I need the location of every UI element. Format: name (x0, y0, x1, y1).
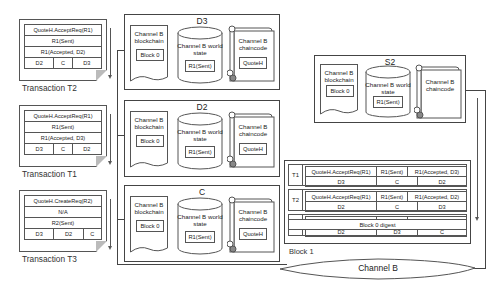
world-state-title: Channel B world state (177, 42, 223, 56)
transaction-label: Transaction T3 (22, 254, 77, 264)
blockchain-title: Channel B blockchain (131, 30, 167, 44)
block-0: Block 0 (136, 135, 164, 147)
chaincode-scroll: Channel B chaincode (414, 64, 462, 120)
endorser-cell: D2 (72, 144, 101, 155)
endorser-cell: D3 (25, 229, 54, 240)
world-state-db: Channel B world state R1(Sent) (365, 65, 411, 119)
world-state-value: R1(Sent) (373, 96, 403, 108)
scroll-icon (227, 111, 275, 169)
endorser-cell: D3 (418, 202, 467, 212)
transaction-card-t3: QuoteH.CreateReq(R2) N/A R2(Sent) D3 D2 … (19, 190, 107, 252)
peer-box-d3: D3 Channel B blockchain Block 0 Channel … (124, 14, 280, 90)
peer-box-c: C Channel B blockchain Block 0 Channel B… (124, 185, 280, 262)
endorser-cell: D2 (418, 177, 467, 187)
transaction-card-t2: QuoteH.AcceptReq(R1) R1(Sent) R1(Accepte… (19, 19, 107, 81)
world-state-db: Channel B world state R1(Sent) (177, 197, 223, 255)
proposal-cell: QuoteH.AcceptReq(R1) (25, 25, 102, 36)
endorser-cell: D3 (306, 177, 377, 187)
proposal-cell: QuoteH.CreateReq(R2) (25, 196, 102, 207)
block-label: Block 1 (289, 247, 314, 256)
endorser-cell: C (83, 229, 101, 240)
arrow-down-icon (110, 28, 111, 76)
peer-box-d2: D2 Channel B blockchain Block 0 Channel … (124, 100, 280, 177)
chaincode-title: Channel B chaincode (233, 208, 273, 222)
chaincode-title: Channel B chaincode (233, 37, 273, 51)
world-state-value: R1(Sent) (185, 60, 215, 72)
transaction-label: Transaction T1 (22, 169, 77, 179)
chaincode-value: QuoteH (239, 228, 267, 240)
blockchain-ledger: Channel B blockchain Block 0 (320, 64, 358, 110)
endorser-cell: C (54, 144, 72, 155)
proposal-cell: QuoteH.AcceptReq(R1) (306, 167, 377, 177)
transaction-card-t1: QuoteH.AcceptReq(R1) R1(Sent) R1(Accepte… (19, 105, 107, 167)
wave-edge-icon (320, 106, 358, 116)
wave-edge-icon (130, 159, 168, 169)
scroll-icon (227, 25, 275, 83)
block-transaction-table: QuoteH.AcceptReq(R1) R1(Sent) R1(Accepte… (305, 191, 467, 212)
endorser-cell: C (377, 202, 418, 212)
connector-line (117, 50, 118, 265)
block-digest: Block 0 digest (288, 219, 467, 230)
orderer-box-s2: S2 Channel B blockchain Block 0 Channel … (314, 55, 466, 123)
chaincode-scroll: Channel B chaincode QuoteH (227, 25, 275, 83)
wave-edge-icon (130, 244, 168, 254)
endorser-cell: D2 (25, 58, 54, 69)
blockchain-ledger: Channel B blockchain Block 0 (130, 111, 168, 163)
proposal-cell: QuoteH.AcceptReq(R1) (25, 111, 102, 122)
connector-line (466, 90, 486, 91)
world-state-title: Channel B world state (177, 128, 223, 142)
block-transaction-t2: T2 QuoteH.AcceptReq(R1) R1(Sent) R1(Acce… (288, 189, 467, 211)
chaincode-value: QuoteH (239, 57, 267, 69)
world-state-value: R1(Sent) (185, 146, 215, 158)
block-0: Block 0 (136, 220, 164, 232)
write-set-cell: R1(Accepted, D3) (408, 167, 467, 177)
block-1: T1 QuoteH.AcceptReq(R1) R1(Sent) R1(Acce… (284, 160, 471, 244)
block-transaction-t1: T1 QuoteH.AcceptReq(R1) R1(Sent) R1(Acce… (288, 164, 467, 186)
scroll-icon (227, 196, 275, 254)
endorser-cell: D2 (306, 202, 377, 212)
page-fold-icon (96, 70, 107, 81)
endorser-cell: D3 (25, 144, 54, 155)
chaincode-value: QuoteH (239, 143, 267, 155)
blockchain-title: Channel B blockchain (321, 69, 357, 83)
write-set-cell: R2(Sent) (25, 218, 102, 229)
read-set-cell: R1(Sent) (25, 122, 102, 133)
write-set-cell: R1(Accepted, D2) (408, 192, 467, 202)
transaction-table: QuoteH.CreateReq(R2) N/A R2(Sent) D3 D2 … (24, 195, 102, 240)
blockchain-ledger: Channel B blockchain Block 0 (130, 25, 168, 77)
endorser-cell: D2 (54, 229, 83, 240)
blockchain-title: Channel B blockchain (131, 201, 167, 215)
transaction-id: T1 (289, 165, 303, 185)
chaincode-scroll: Channel B chaincode QuoteH (227, 196, 275, 254)
world-state-value: R1(Sent) (185, 231, 215, 243)
read-set-cell: R1(Sent) (25, 36, 102, 47)
channel-label: Channel B (278, 263, 478, 273)
transaction-table: QuoteH.AcceptReq(R1) R1(Sent) R1(Accepte… (24, 24, 102, 69)
read-set-cell: R1(Sent) (377, 167, 408, 177)
block-0: Block 0 (326, 85, 354, 97)
connector-line (485, 90, 486, 269)
connector-line (117, 264, 287, 265)
blockchain-title: Channel B blockchain (131, 116, 167, 130)
world-state-title: Channel B world state (365, 81, 411, 95)
arrow-down-icon (110, 114, 111, 162)
arrow-down-icon (110, 199, 111, 247)
endorser-cell: C (54, 58, 72, 69)
write-set-cell: R1(Accepted, D2) (25, 47, 102, 58)
endorser-cell: C (377, 177, 418, 187)
transaction-id: T2 (289, 190, 303, 210)
transaction-table: QuoteH.AcceptReq(R1) R1(Sent) R1(Accepte… (24, 110, 102, 155)
world-state-title: Channel B world state (177, 213, 223, 227)
endorser-cell: D3 (72, 58, 101, 69)
chaincode-title: Channel B chaincode (420, 78, 460, 92)
read-set-cell: R1(Sent) (377, 192, 408, 202)
block-transaction-table: QuoteH.AcceptReq(R1) R1(Sent) R1(Accepte… (305, 166, 467, 187)
blockchain-ledger: Channel B blockchain Block 0 (130, 196, 168, 248)
wave-edge-icon (130, 73, 168, 83)
world-state-db: Channel B world state R1(Sent) (177, 26, 223, 84)
world-state-db: Channel B world state R1(Sent) (177, 112, 223, 170)
block-0: Block 0 (136, 49, 164, 61)
arrow-down-icon (477, 98, 478, 218)
proposal-cell: QuoteH.AcceptReq(R1) (306, 192, 377, 202)
chaincode-scroll: Channel B chaincode QuoteH (227, 111, 275, 169)
